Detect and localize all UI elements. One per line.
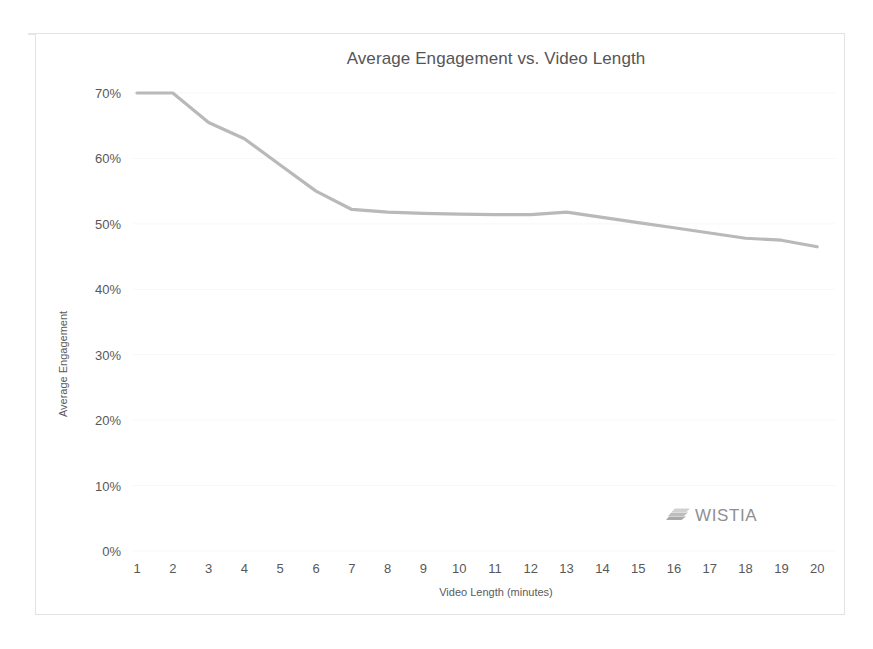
y-tick-label: 50% xyxy=(95,217,121,232)
engagement-line-chart: 0%10%20%30%40%50%60%70% 1234567891011121… xyxy=(36,34,846,616)
y-tick-label: 40% xyxy=(95,282,121,297)
x-tick-label: 18 xyxy=(738,561,752,576)
y-axis-title: Average Engagement xyxy=(57,311,69,417)
x-tick-label: 6 xyxy=(312,561,319,576)
wistia-logo: WISTIA xyxy=(666,506,757,525)
x-axis-tick-labels: 1234567891011121314151617181920 xyxy=(133,561,824,576)
x-tick-label: 9 xyxy=(420,561,427,576)
y-tick-label: 0% xyxy=(102,544,121,559)
x-tick-label: 7 xyxy=(348,561,355,576)
x-tick-label: 17 xyxy=(703,561,717,576)
gridlines xyxy=(133,93,835,551)
y-tick-label: 20% xyxy=(95,413,121,428)
x-tick-label: 12 xyxy=(524,561,538,576)
x-tick-label: 11 xyxy=(488,561,502,576)
chart-card: 0%10%20%30%40%50%60%70% 1234567891011121… xyxy=(35,33,845,615)
y-tick-label: 60% xyxy=(95,151,121,166)
x-tick-label: 10 xyxy=(452,561,466,576)
x-tick-label: 2 xyxy=(169,561,176,576)
x-tick-label: 1 xyxy=(133,561,140,576)
x-tick-label: 3 xyxy=(205,561,212,576)
x-tick-label: 19 xyxy=(774,561,788,576)
x-tick-label: 4 xyxy=(241,561,248,576)
y-tick-label: 30% xyxy=(95,348,121,363)
x-tick-label: 14 xyxy=(595,561,609,576)
x-tick-label: 15 xyxy=(631,561,645,576)
x-axis-title: Video Length (minutes) xyxy=(439,586,553,598)
y-tick-label: 70% xyxy=(95,86,121,101)
wistia-wordmark: WISTIA xyxy=(695,506,757,525)
wistia-swoosh-icon xyxy=(666,509,690,521)
x-tick-label: 13 xyxy=(559,561,573,576)
chart-title: Average Engagement vs. Video Length xyxy=(347,49,646,68)
y-tick-label: 10% xyxy=(95,479,121,494)
x-tick-label: 8 xyxy=(384,561,391,576)
y-axis-tick-labels: 0%10%20%30%40%50%60%70% xyxy=(95,86,121,559)
x-tick-label: 20 xyxy=(810,561,824,576)
x-tick-label: 16 xyxy=(667,561,681,576)
x-tick-label: 5 xyxy=(277,561,284,576)
